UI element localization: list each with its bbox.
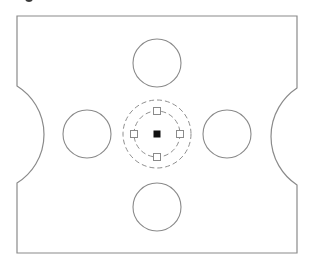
hole-left[interactable] <box>63 110 111 158</box>
drawing-canvas[interactable] <box>0 0 315 266</box>
selected-circle-group[interactable] <box>123 100 191 168</box>
grip-left-icon[interactable] <box>131 131 138 138</box>
grip-right-icon[interactable] <box>177 131 184 138</box>
grip-top-icon[interactable] <box>154 108 161 115</box>
grip-bottom-icon[interactable] <box>154 154 161 161</box>
hole-bottom[interactable] <box>133 183 181 231</box>
hole-right[interactable] <box>203 110 251 158</box>
hole-top[interactable] <box>133 39 181 87</box>
center-grip-icon[interactable] <box>154 131 161 138</box>
